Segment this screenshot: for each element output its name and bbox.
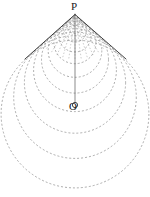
point-label-o: O xyxy=(69,101,77,112)
figure-canvas xyxy=(0,0,150,197)
geometry-figure: P O xyxy=(0,0,150,197)
left-tangent-line xyxy=(25,15,75,60)
point-label-p: P xyxy=(71,1,77,12)
right-tangent-line xyxy=(75,15,126,60)
